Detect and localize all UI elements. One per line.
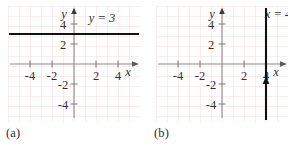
x-tick-label-2-a: 2 bbox=[93, 69, 99, 83]
x-tick-label-2-b: 2 bbox=[241, 69, 247, 83]
caption-b: (b) bbox=[154, 126, 169, 141]
x-tick-label-neg4-a: -4 bbox=[25, 69, 36, 83]
caption-a: (a) bbox=[6, 126, 20, 141]
y-tick-label-neg2-b: -2 bbox=[206, 78, 216, 92]
two-panel-graph-figure: -4 -2 2 4 4 2 -2 -4 y x y = 3 (a) bbox=[0, 0, 296, 156]
x-tick-label-4-a: 4 bbox=[115, 69, 122, 83]
x-tick-label-neg2-a: -2 bbox=[47, 69, 57, 83]
y-axis-label-b: y bbox=[207, 7, 215, 21]
x-tick-label-neg4-b: -4 bbox=[173, 69, 184, 83]
equation-label-b: x = 4 bbox=[264, 7, 288, 21]
y-tick-label-2-b: 2 bbox=[208, 38, 214, 52]
y-tick-label-neg2-a: -2 bbox=[58, 78, 68, 92]
panel-a: -4 -2 2 4 4 2 -2 -4 y x y = 3 (a) bbox=[0, 0, 148, 156]
y-tick-label-2-a: 2 bbox=[60, 38, 66, 52]
x-axis-label-b: x bbox=[272, 65, 279, 79]
y-axis-label-a: y bbox=[59, 7, 67, 21]
y-tick-label-neg4-b: -4 bbox=[206, 98, 217, 112]
plot-area-a: -4 -2 2 4 4 2 -2 -4 y x y = 3 bbox=[8, 6, 140, 122]
y-tick-label-neg4-a: -4 bbox=[58, 98, 69, 112]
coordinate-plane-b: -4 -2 2 4 4 2 -2 -4 y x x = 4 bbox=[156, 6, 288, 122]
equation-label-a: y = 3 bbox=[87, 11, 115, 25]
x-axis-label-a: x bbox=[124, 65, 131, 79]
x-tick-label-neg2-b: -2 bbox=[195, 69, 205, 83]
plot-area-b: -4 -2 2 4 4 2 -2 -4 y x x = 4 bbox=[156, 6, 288, 122]
panel-b: -4 -2 2 4 4 2 -2 -4 y x x = 4 (b) bbox=[148, 0, 296, 156]
coordinate-plane-a: -4 -2 2 4 4 2 -2 -4 y x y = 3 bbox=[8, 6, 140, 122]
